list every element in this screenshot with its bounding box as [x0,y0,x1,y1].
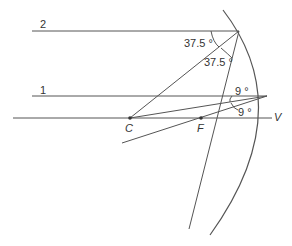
ray-2-label: 2 [40,19,46,30]
label-c: C [125,123,133,134]
label-v: V [274,112,281,123]
ray-2-incident-angle: 37.5 ° [184,38,213,49]
ray-1-reflected-angle: 9 ° [238,107,252,118]
angle-arc-9-incident [230,96,232,102]
ray-1-label: 1 [40,85,46,96]
mirror-diagram [0,0,292,246]
ray-1-incident-angle: 9 ° [235,86,249,97]
ray-1-reflected [122,96,267,143]
point-f-dot [199,116,203,120]
ray-2-reflected-angle: 37.5 ° [204,57,233,68]
label-f: F [197,123,204,134]
point-c-dot [128,116,132,120]
concave-mirror-arc [210,10,259,235]
